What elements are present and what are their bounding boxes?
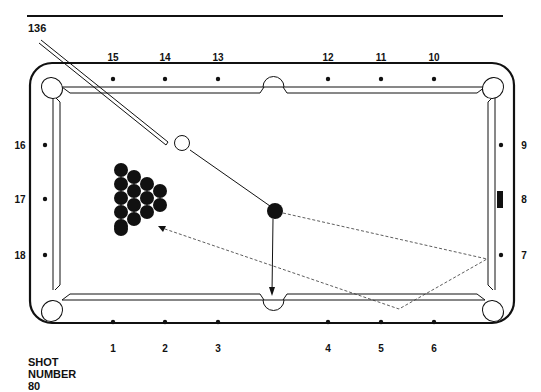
diamond-label-top: 15 bbox=[107, 52, 118, 63]
diamond-label-top: 13 bbox=[212, 52, 223, 63]
diamond-label-left: 18 bbox=[14, 250, 25, 261]
diamond-label-right: 8 bbox=[521, 194, 527, 205]
cue-ball-return-path bbox=[162, 213, 487, 309]
diamond-label-bottom: 3 bbox=[215, 343, 221, 354]
diamond-label-bottom: 1 bbox=[110, 343, 116, 354]
cue-ball bbox=[175, 136, 190, 151]
side-marker-8 bbox=[497, 191, 503, 208]
shot-number-value: 80 bbox=[28, 380, 76, 392]
diamond-label-right: 7 bbox=[521, 250, 527, 261]
shot-label: SHOT bbox=[28, 356, 76, 368]
shot-number-block: SHOT NUMBER 80 bbox=[28, 356, 76, 392]
diamond-label-right: 9 bbox=[521, 140, 527, 151]
object-ball-path bbox=[272, 219, 273, 293]
diamond-label-bottom: 4 bbox=[325, 343, 331, 354]
diamond-label-top: 14 bbox=[159, 52, 170, 63]
arrow-head-icon bbox=[269, 287, 275, 296]
diamond-label-left: 16 bbox=[14, 140, 25, 151]
ball-rack bbox=[114, 163, 167, 236]
diamond-label-bottom: 2 bbox=[162, 343, 168, 354]
diamond-label-left: 17 bbox=[14, 194, 25, 205]
object-ball bbox=[267, 203, 283, 219]
number-label: NUMBER bbox=[28, 368, 76, 380]
diamond-label-top: 12 bbox=[322, 52, 333, 63]
diamond-label-bottom: 5 bbox=[378, 343, 384, 354]
diamond-label-bottom: 6 bbox=[431, 343, 437, 354]
diamond-label-top: 11 bbox=[376, 52, 387, 63]
cue-ball-path bbox=[190, 150, 270, 206]
diamond-label-top: 10 bbox=[428, 52, 439, 63]
